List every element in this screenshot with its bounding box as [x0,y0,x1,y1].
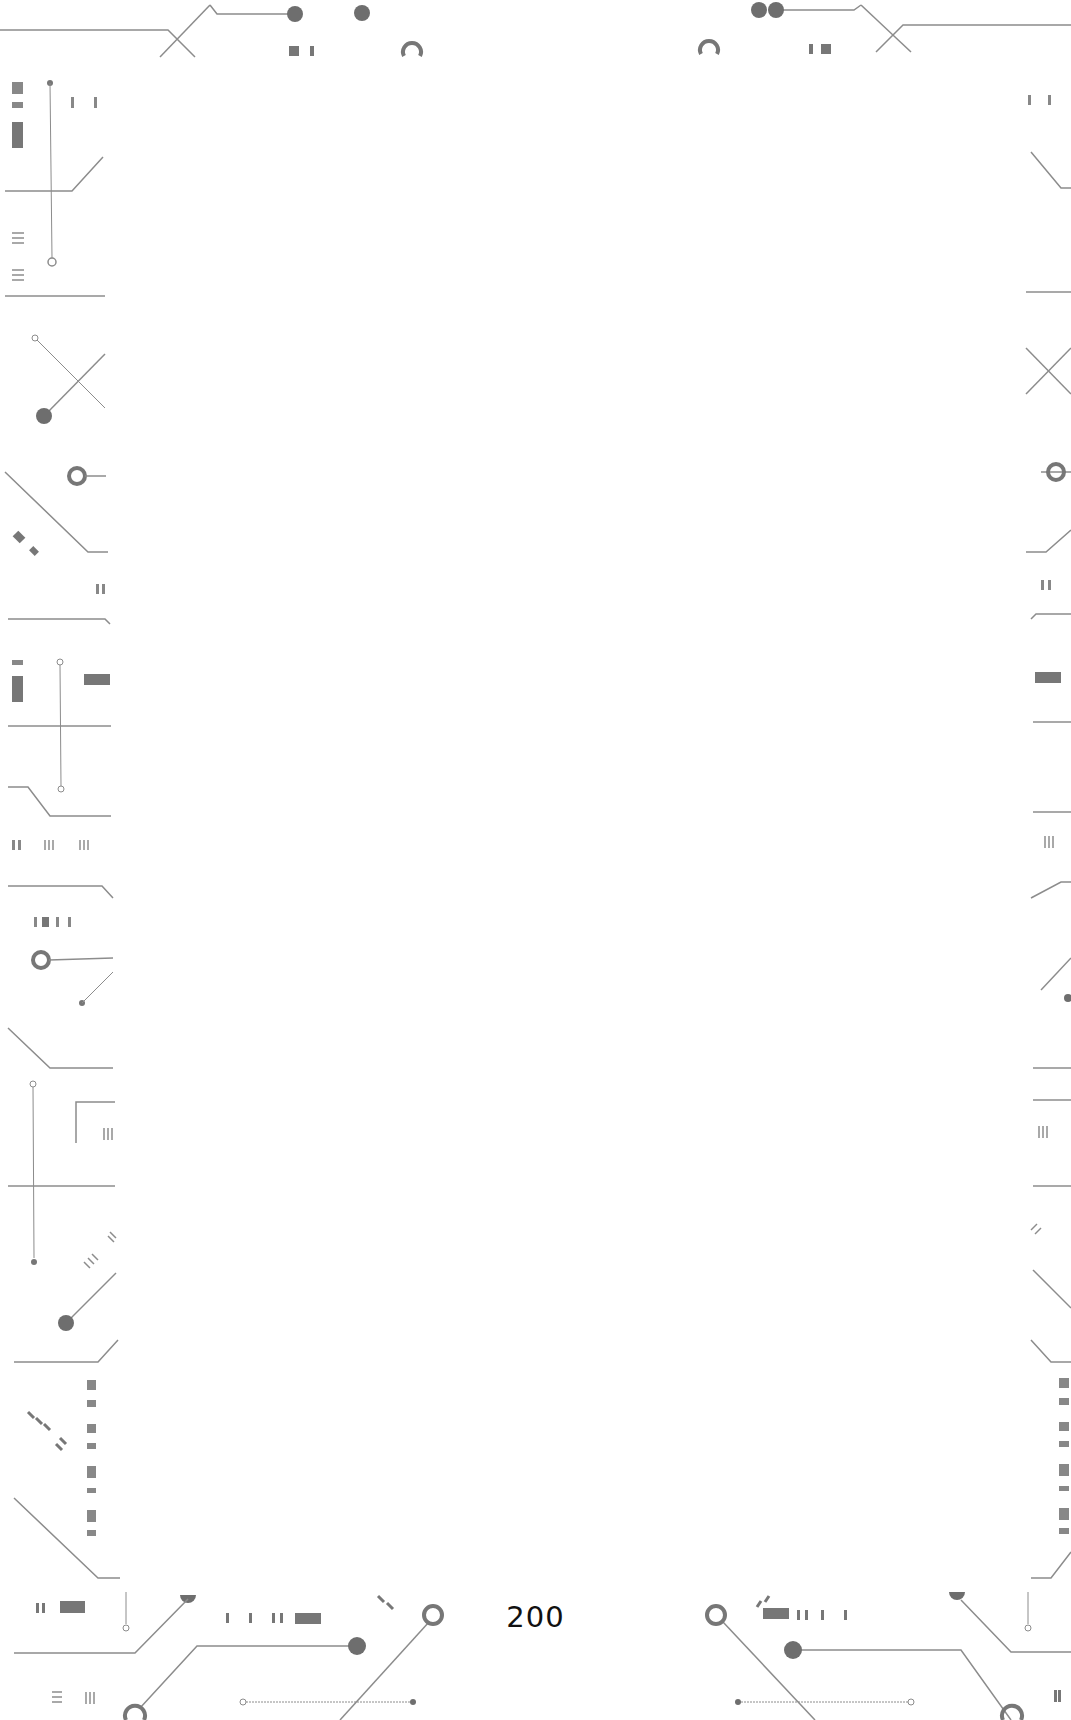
page-content-area [120,60,950,1560]
page-number: 200 [0,1600,1071,1634]
